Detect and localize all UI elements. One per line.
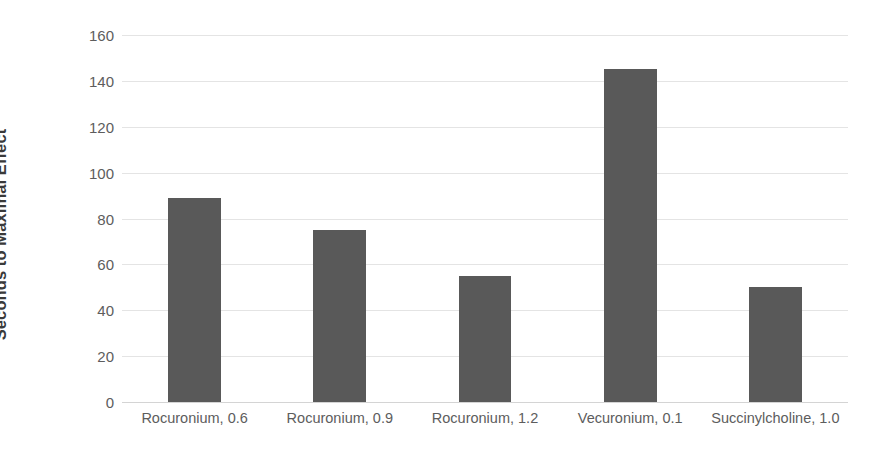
y-axis-tick-labels: 160140120100806040200 — [56, 0, 114, 469]
x-axis-tick-label: Succinylcholine, 1.0 — [711, 410, 839, 426]
bar — [313, 230, 366, 402]
y-axis-tick-label: 0 — [56, 394, 114, 411]
plot-area — [122, 35, 848, 402]
y-axis-tick-label: 60 — [56, 256, 114, 273]
y-axis-title: Seconds to Maximal Effect — [0, 0, 62, 469]
y-axis-tick-label: 100 — [56, 164, 114, 181]
y-axis-tick-label: 80 — [56, 210, 114, 227]
gridline — [122, 402, 848, 403]
bar — [604, 69, 657, 402]
x-axis-tick-label: Rocuronium, 1.2 — [432, 410, 538, 426]
y-axis-tick-label: 160 — [56, 27, 114, 44]
y-axis-tick-label: 120 — [56, 118, 114, 135]
x-axis-tick-label: Rocuronium, 0.9 — [287, 410, 393, 426]
bar — [459, 276, 512, 402]
x-axis-tick-label: Vecuronium, 0.1 — [578, 410, 683, 426]
y-axis-tick-label: 40 — [56, 302, 114, 319]
x-axis-tick-label: Rocuronium, 0.6 — [141, 410, 247, 426]
y-axis-tick-label: 20 — [56, 348, 114, 365]
y-axis-tick-label: 140 — [56, 72, 114, 89]
bars-group — [122, 35, 848, 402]
bar — [168, 198, 221, 402]
bar-chart: Seconds to Maximal Effect 16014012010080… — [0, 0, 890, 469]
x-axis-tick-labels: Rocuronium, 0.6Rocuronium, 0.9Rocuronium… — [122, 410, 848, 440]
bar — [749, 287, 802, 402]
